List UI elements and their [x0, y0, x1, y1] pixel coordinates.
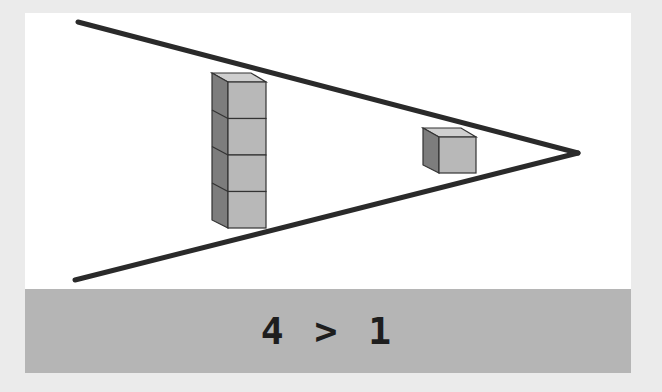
- caption-band: 4 > 1: [25, 289, 631, 373]
- cube-front: [439, 137, 476, 173]
- cube-front-1: [228, 82, 266, 119]
- comparison-caption: 4 > 1: [261, 309, 395, 353]
- cube-stack-4: [212, 73, 266, 228]
- cube-front-2: [228, 119, 266, 156]
- upper-jaw-line: [78, 22, 578, 153]
- cube-front-4: [228, 192, 266, 229]
- cube-front-3: [228, 155, 266, 192]
- lower-jaw-line: [75, 153, 578, 280]
- single-cube: [423, 128, 476, 173]
